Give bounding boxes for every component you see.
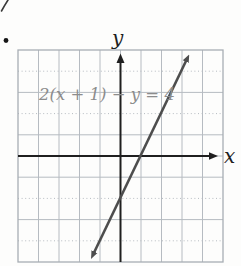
figure-page: 2(x + 1) − y = 4 y x — [0, 0, 241, 266]
x-axis-label: x — [224, 144, 235, 168]
y-axis-label: y — [111, 26, 124, 50]
cropped-problem-number-mark — [2, 0, 9, 11]
equation-label: 2(x + 1) − y = 4 — [38, 85, 175, 104]
list-bullet-dot — [4, 38, 9, 43]
coordinate-plane-figure: 2(x + 1) − y = 4 y x — [0, 0, 241, 266]
